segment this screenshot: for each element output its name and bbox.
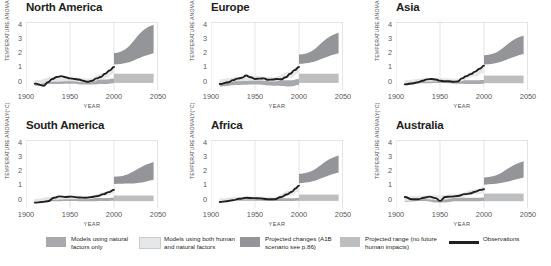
y-tick-label: 0 (6, 196, 22, 203)
y-tick-label: 4 (6, 139, 22, 146)
y-tick-label: 4 (191, 21, 207, 28)
regional-temperature-anomaly-figure: North AmericaTEMPERATURE ANOMALY(°C)4321… (0, 0, 551, 266)
x-tick-label: 2050 (328, 93, 358, 100)
legend-label-projected-changes: Projected changes (A1B scenario see p.86… (265, 235, 343, 250)
projected-changes-band (114, 25, 154, 65)
x-tick-label: 1900 (381, 93, 411, 100)
x-tick-label: 1900 (11, 93, 41, 100)
y-tick-label: 1 (376, 181, 392, 188)
y-tick-label: 2 (376, 167, 392, 174)
panel-asia: AsiaTEMPERATURE ANOMALY(°C)4321019001950… (370, 0, 551, 118)
x-axis-label: YEAR (26, 221, 158, 227)
y-tick-label: 1 (191, 63, 207, 70)
legend-swatch-projected-range (340, 237, 360, 247)
y-tick-label: 0 (191, 78, 207, 85)
panel-title-europe: Europe (211, 1, 249, 13)
y-tick-label: 3 (191, 35, 207, 42)
plot-area-south-america (26, 140, 158, 208)
x-tick-label: 1950 (240, 211, 270, 218)
legend-label-natural-only: Models using natural factors only (71, 235, 141, 250)
plot-area-australia (396, 140, 528, 208)
y-tick-label: 3 (376, 35, 392, 42)
x-tick-label: 2000 (469, 211, 499, 218)
panel-title-australia: Australia (396, 119, 443, 131)
projected-changes-band (299, 156, 339, 184)
x-tick-label: 1950 (55, 211, 85, 218)
y-tick-label: 1 (376, 63, 392, 70)
panel-title-north-america: North America (26, 1, 102, 13)
x-tick-label: 2050 (513, 211, 543, 218)
x-tick-label: 1950 (425, 211, 455, 218)
x-axis-label: YEAR (211, 221, 343, 227)
plot-area-europe (211, 22, 343, 90)
x-tick-label: 1950 (55, 93, 85, 100)
panel-north-america: North AmericaTEMPERATURE ANOMALY(°C)4321… (0, 0, 183, 118)
projected-changes-band (484, 161, 524, 184)
projected-range-band (484, 76, 524, 84)
x-tick-label: 1950 (425, 93, 455, 100)
y-tick-label: 3 (6, 35, 22, 42)
panel-title-asia: Asia (396, 1, 420, 13)
y-tick-label: 3 (376, 153, 392, 160)
x-tick-label: 2050 (143, 93, 173, 100)
panel-title-africa: Africa (211, 119, 242, 131)
x-tick-label: 2000 (284, 93, 314, 100)
y-tick-label: 1 (6, 181, 22, 188)
x-axis-label: YEAR (26, 103, 158, 109)
x-axis-label: YEAR (396, 103, 528, 109)
x-tick-label: 1900 (196, 93, 226, 100)
legend-label-human-and-natural: Models using both human and natural fact… (164, 235, 242, 250)
x-tick-label: 1900 (11, 211, 41, 218)
projected-range-band (114, 196, 154, 202)
plot-area-north-america (26, 22, 158, 90)
x-tick-label: 2050 (513, 93, 543, 100)
x-tick-label: 2050 (143, 211, 173, 218)
x-tick-label: 1900 (381, 211, 411, 218)
panel-australia: AustraliaTEMPERATURE ANOMALY(°C)43210190… (370, 118, 551, 236)
legend-line-swatch (449, 241, 479, 244)
y-tick-label: 1 (191, 181, 207, 188)
x-tick-label: 2000 (284, 211, 314, 218)
y-tick-label: 2 (6, 49, 22, 56)
panel-africa: AfricaTEMPERATURE ANOMALY(°C)43210190019… (185, 118, 368, 236)
legend-swatch-natural-only (46, 237, 66, 247)
x-tick-label: 1950 (240, 93, 270, 100)
y-tick-label: 4 (6, 21, 22, 28)
projected-changes-band (114, 162, 154, 184)
y-tick-label: 2 (191, 49, 207, 56)
y-tick-label: 3 (6, 153, 22, 160)
y-tick-label: 1 (6, 63, 22, 70)
plot-area-asia (396, 22, 528, 90)
x-axis-label: YEAR (396, 221, 528, 227)
y-tick-label: 4 (191, 139, 207, 146)
y-tick-label: 0 (376, 196, 392, 203)
y-tick-label: 2 (376, 49, 392, 56)
y-tick-label: 0 (191, 196, 207, 203)
x-tick-label: 2000 (99, 93, 129, 100)
y-tick-label: 2 (6, 167, 22, 174)
x-tick-label: 2000 (469, 93, 499, 100)
legend-swatch-projected-changes (240, 237, 260, 247)
panel-south-america: South AmericaTEMPERATURE ANOMALY(°C)4321… (0, 118, 183, 236)
y-tick-label: 0 (376, 78, 392, 85)
figure-legend: Models using natural factors onlyModels … (0, 236, 551, 266)
projected-changes-band (484, 35, 524, 64)
projected-changes-band (299, 33, 339, 64)
legend-label-projected-range: Projected range (no future human impacts… (365, 235, 445, 250)
plot-area-africa (211, 140, 343, 208)
y-tick-label: 2 (191, 167, 207, 174)
projected-range-band (484, 194, 524, 202)
projected-range-band (114, 74, 154, 83)
y-tick-label: 0 (6, 78, 22, 85)
y-tick-label: 3 (191, 153, 207, 160)
x-tick-label: 1900 (196, 211, 226, 218)
panel-europe: EuropeTEMPERATURE ANOMALY(°C)43210190019… (185, 0, 368, 118)
x-tick-label: 2050 (328, 211, 358, 218)
y-tick-label: 4 (376, 21, 392, 28)
projected-range-band (299, 195, 339, 201)
legend-swatch-human-and-natural (139, 237, 161, 249)
x-axis-label: YEAR (211, 103, 343, 109)
legend-label-observations: Observations (483, 235, 551, 243)
projected-range-band (299, 74, 339, 83)
panel-title-south-america: South America (26, 119, 104, 131)
